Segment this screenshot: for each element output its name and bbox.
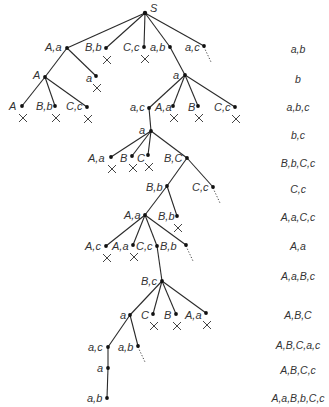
node-dot xyxy=(143,213,147,217)
pruned-cross-icon xyxy=(52,114,60,122)
node-dot xyxy=(196,104,200,108)
node-label: B xyxy=(164,309,171,321)
node-label: A,c xyxy=(85,240,101,252)
node-dot xyxy=(185,156,189,160)
node-label: S xyxy=(150,2,157,14)
node-dot xyxy=(106,366,110,370)
node-label: C xyxy=(137,152,145,164)
node-label: C,c xyxy=(123,41,140,53)
node-dot xyxy=(130,154,134,158)
level-label: b,c xyxy=(291,129,305,141)
node-label: a xyxy=(173,69,179,81)
node-dot xyxy=(174,312,178,316)
node-label: a xyxy=(139,124,145,136)
open-branch-line xyxy=(213,188,220,203)
node-label: a xyxy=(97,362,103,374)
node-label: a,b xyxy=(150,41,165,53)
node-label: B xyxy=(120,152,127,164)
node-label: a,c xyxy=(185,41,200,53)
node-dot xyxy=(85,105,89,109)
pruned-cross-icon xyxy=(203,321,211,329)
open-branch-line xyxy=(186,246,193,261)
node-label: C,c xyxy=(66,100,83,112)
pruned-cross-icon xyxy=(141,55,149,63)
node-dot xyxy=(104,46,108,50)
open-branch-line xyxy=(204,47,211,62)
node-label: B,b xyxy=(160,240,177,252)
pruned-cross-icon xyxy=(174,224,182,232)
node-label: C,c xyxy=(214,101,231,113)
pruned-cross-icon xyxy=(108,165,116,173)
node-dot xyxy=(128,313,132,317)
node-label: A,a xyxy=(155,101,172,113)
node-label: a,c xyxy=(130,101,145,113)
pruned-cross-icon xyxy=(130,253,138,261)
node-label: a,b xyxy=(87,392,102,404)
open-branch-dotted-lines xyxy=(138,47,220,362)
node-dot xyxy=(211,185,215,189)
node-dot xyxy=(131,243,135,247)
tree-edge xyxy=(149,108,151,131)
node-dot xyxy=(53,104,57,108)
node-dot xyxy=(233,105,237,109)
node-label: B,b xyxy=(146,181,163,193)
level-label: A,a,C,c xyxy=(281,211,315,223)
level-label: b xyxy=(295,73,301,85)
node-dot xyxy=(142,45,146,49)
node-dot xyxy=(106,345,110,349)
open-branch-line xyxy=(138,347,145,362)
pruned-cross-icon xyxy=(93,84,101,92)
node-dot xyxy=(65,46,69,50)
node-label: A xyxy=(33,69,40,81)
node-label: a xyxy=(86,72,92,84)
level-label: a,b xyxy=(291,43,306,55)
node-dot xyxy=(20,104,24,108)
node-label: A,a xyxy=(185,309,202,321)
node-label: a xyxy=(120,309,126,321)
level-label: A,a,B,c xyxy=(281,270,315,282)
node-dot xyxy=(165,184,169,188)
node-label: A xyxy=(9,100,16,112)
node-label: A,a xyxy=(45,41,62,53)
pruned-cross-icon xyxy=(232,115,240,123)
node-dot xyxy=(183,73,187,77)
node-label: C,c xyxy=(192,181,209,193)
level-label: A,B,C,a,c xyxy=(276,339,320,351)
node-label: B,b xyxy=(36,100,53,112)
node-dot xyxy=(109,155,113,159)
node-dot xyxy=(202,44,206,48)
node-dot xyxy=(184,243,188,247)
node-dot xyxy=(146,153,150,157)
node-dot xyxy=(94,74,98,78)
node-label: C xyxy=(141,309,149,321)
pruned-cross-icon xyxy=(170,114,178,122)
node-label: B,C xyxy=(164,152,182,164)
pruned-cross-icon xyxy=(145,163,153,171)
node-dot xyxy=(160,279,164,283)
tree-edge xyxy=(144,13,145,47)
node-label: A,a xyxy=(88,152,105,164)
node-dot xyxy=(105,396,109,400)
node-dot xyxy=(43,75,47,79)
pruned-cross-icon xyxy=(195,114,203,122)
node-dot xyxy=(155,244,159,248)
node-label: A,a xyxy=(124,209,141,221)
node-dot xyxy=(175,214,179,218)
node-label: B xyxy=(188,101,195,113)
level-label: A,B,C xyxy=(284,309,311,321)
level-label: B,b,C,c xyxy=(281,157,315,169)
node-dot xyxy=(151,312,155,316)
node-dot xyxy=(136,344,140,348)
node-dot xyxy=(204,311,208,315)
node-label: C,c xyxy=(136,240,153,252)
level-label: A,B,C,c xyxy=(280,364,316,376)
level-label: C,c xyxy=(290,183,306,195)
node-label: B,b xyxy=(158,210,175,222)
level-label: A,a,B,b,C,c xyxy=(271,392,324,404)
node-dot xyxy=(143,11,147,15)
pruned-cross-icon xyxy=(173,322,181,330)
node-label: a,b xyxy=(118,341,133,353)
node-label: B,b xyxy=(85,41,102,53)
pruned-cross-icon xyxy=(84,115,92,123)
node-dot xyxy=(104,244,108,248)
